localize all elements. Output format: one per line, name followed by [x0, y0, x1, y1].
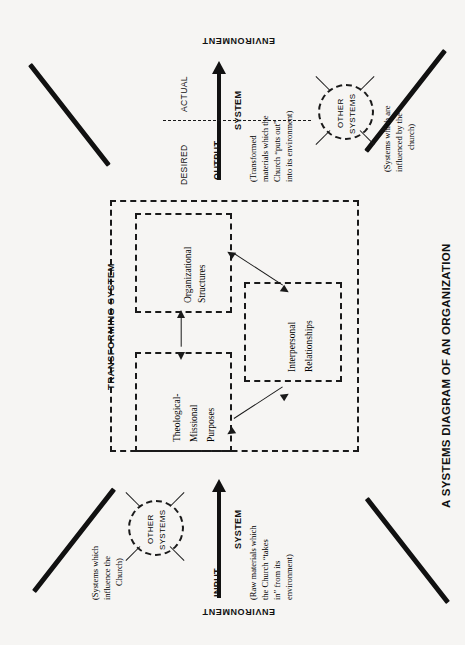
output-desired-label: DESIRED — [179, 144, 189, 185]
arrowhead-down-purposes — [177, 352, 185, 360]
component-line: Purposes — [206, 408, 216, 442]
component-label-missional: Missional — [189, 405, 199, 442]
input-arrow-head — [212, 479, 226, 492]
component-box-theological-missional-purposes — [135, 352, 232, 452]
desc-text: environment) — [284, 554, 294, 600]
other-systems-label-output-line2: SYSTEMS — [348, 94, 357, 134]
note-text: (Systems which — [90, 546, 100, 600]
desc-text: Church “puts out” — [272, 120, 282, 182]
label-text: OTHER — [146, 515, 155, 545]
component-label-interpersonal: Interpersonal — [287, 322, 297, 372]
environment-label-bottom: ENVIRONMENT — [202, 607, 275, 617]
output-description-line-3: Church “puts out” — [272, 120, 282, 182]
other-systems-label-input-line1: OTHER — [146, 515, 155, 545]
desc-text: into its environment) — [284, 111, 294, 182]
output-description-line-2: materials which the — [260, 115, 270, 182]
label-text: OTHER — [336, 99, 345, 129]
boundary-bar-bottom-right — [365, 497, 450, 604]
figure-title: A SYSTEMS DIAGRAM OF AN ORGANIZATION — [440, 243, 452, 508]
other-systems-spoke — [316, 76, 331, 91]
link-structures-purposes — [180, 317, 181, 347]
output-actual-label: ACTUAL — [179, 76, 189, 112]
component-label-theological: Theological- — [172, 393, 182, 442]
note-text: Church) — [114, 558, 124, 586]
component-line: Structures — [197, 264, 207, 303]
component-label-organizational-structures-2: Structures — [197, 264, 208, 303]
component-label-purposes: Purposes — [206, 408, 216, 442]
component-line: Theological- — [172, 393, 182, 442]
arrowhead-up-structures — [177, 310, 185, 318]
component-label-organizational-structures: Organizational — [183, 247, 194, 303]
boundary-bar-top-left — [28, 63, 111, 167]
label-text: SYSTEMS — [158, 510, 167, 550]
desc-text: materials which the — [260, 115, 270, 182]
other-systems-spoke — [316, 130, 331, 145]
input-other-systems-note-line-1: (Systems which — [90, 546, 100, 600]
output-description-line-4: into its environment) — [284, 111, 294, 182]
other-systems-spoke — [170, 546, 185, 561]
desc-text: (Transformed — [248, 136, 258, 182]
input-other-systems-note-line-3: Church) — [114, 558, 124, 586]
other-systems-label-input-line2: SYSTEMS — [158, 510, 167, 550]
note-text: influence the — [102, 556, 112, 600]
component-line: Interpersonal — [287, 322, 297, 372]
desc-text: the Church “takes — [260, 539, 270, 600]
environment-label-top: ENVIRONMENT — [202, 36, 275, 46]
input-description-line-1: (Raw materials which — [248, 525, 258, 600]
input-other-systems-note-line-2: influence the — [102, 556, 112, 600]
desc-text: (Raw materials which — [248, 525, 258, 600]
note-text: influenced by the — [394, 113, 404, 172]
output-description-line-1: (Transformed — [248, 136, 258, 182]
label-text: SYSTEMS — [348, 94, 357, 134]
diagram-canvas: ENVIRONMENT ENVIRONMENT A SYSTEMS DIAGRA… — [0, 0, 465, 645]
other-systems-spoke — [126, 546, 141, 561]
output-other-systems-note-line-1: (Systems which are — [382, 105, 392, 172]
output-system-label: SYSTEM — [233, 91, 243, 130]
output-other-systems-note-line-3: church) — [406, 124, 416, 150]
other-systems-spoke — [170, 492, 185, 507]
component-line: Missional — [189, 405, 199, 442]
input-description-line-4: environment) — [284, 554, 294, 600]
component-line: Relationships — [304, 320, 314, 372]
output-arrow-head — [212, 61, 226, 74]
note-text: (Systems which are — [382, 105, 392, 172]
component-label-relationships: Relationships — [304, 320, 314, 372]
output-other-systems-note-line-2: influenced by the — [394, 113, 404, 172]
output-flow-label: OUTPUT — [212, 141, 222, 180]
input-description-line-3: in” from its — [272, 561, 282, 600]
desc-text: in” from its — [272, 561, 282, 600]
transforming-system-label: TRANSFORMING SYSTEM — [105, 263, 116, 390]
other-systems-spoke — [126, 492, 141, 507]
note-text: church) — [406, 124, 416, 150]
component-line: Organizational — [183, 247, 193, 303]
input-description-line-2: the Church “takes — [260, 539, 270, 600]
input-system-label: SYSTEM — [233, 510, 243, 549]
other-systems-label-output-line1: OTHER — [336, 99, 345, 129]
other-systems-spoke — [360, 76, 375, 91]
input-flow-label: INPUT — [212, 568, 222, 597]
